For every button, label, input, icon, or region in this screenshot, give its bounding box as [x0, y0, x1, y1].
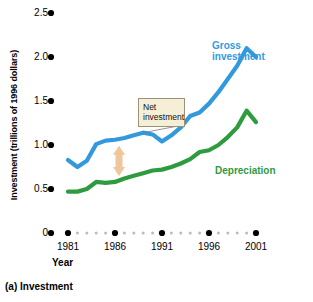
x-axis-minor-dot [132, 232, 135, 235]
y-axis-tick-dots [48, 10, 54, 236]
y-axis-tick-dot [48, 186, 54, 192]
x-axis-minor-dot [104, 232, 107, 235]
x-axis-major-dot [206, 230, 212, 236]
investment-chart-figure: Investment (trillions of 1996 dollars) 2… [0, 0, 313, 302]
callout-line-1: Net [143, 102, 180, 112]
x-tick-label: 2001 [236, 241, 276, 252]
y-axis-title: Investment (trillions of 1996 dollars) [9, 25, 19, 225]
x-axis-minor-dot [142, 232, 145, 235]
y-axis-tick-dot [48, 54, 54, 60]
x-axis-minor-dot [123, 232, 126, 235]
x-axis-major-dots [65, 230, 259, 236]
x-axis-minor-dot [245, 232, 248, 235]
x-axis-major-dot [112, 230, 118, 236]
x-axis-minor-dot [217, 232, 220, 235]
x-axis-minor-dot [170, 232, 173, 235]
x-axis-minor-dot [151, 232, 154, 235]
callout-line-2: investment [143, 112, 180, 122]
net-investment-arrow-icon [113, 146, 125, 176]
y-axis-tick-dot [48, 10, 54, 16]
x-tick-label: 1996 [189, 241, 229, 252]
x-axis-minor-dot [85, 232, 88, 235]
x-axis-minor-dot [236, 232, 239, 235]
y-tick-label: 2.5 [22, 7, 48, 18]
gross-investment-label-line1: Gross [212, 40, 265, 51]
y-axis-tick-dot [48, 98, 54, 104]
chart-plot-area [0, 0, 313, 302]
x-axis-minor-dot [179, 232, 182, 235]
x-axis-major-dot [253, 230, 259, 236]
net-investment-callout: Net investment [138, 98, 185, 127]
y-tick-label: 1.0 [22, 139, 48, 150]
x-axis-minor-dot [198, 232, 201, 235]
x-tick-label: 1986 [95, 241, 135, 252]
y-tick-label: 0.5 [22, 183, 48, 194]
x-axis-major-dot [65, 230, 71, 236]
y-tick-label: 2.0 [22, 51, 48, 62]
x-axis-minor-dot [95, 232, 98, 235]
x-axis-title: Year [52, 257, 73, 268]
gross-investment-label: Grossinvestment [212, 40, 265, 62]
y-tick-label: 0 [22, 227, 48, 238]
x-axis-minor-dot [189, 232, 192, 235]
gross-investment-label-line2: investment [212, 51, 265, 62]
y-tick-label: 1.5 [22, 95, 48, 106]
depreciation-label: Depreciation [215, 165, 276, 176]
figure-caption: (a) Investment [5, 281, 73, 292]
x-axis-major-dot [159, 230, 165, 236]
x-tick-label: 1981 [48, 241, 88, 252]
x-axis-minor-dot [76, 232, 79, 235]
y-axis-tick-dot [48, 230, 54, 236]
y-axis-tick-dot [48, 142, 54, 148]
x-axis-minor-dot [226, 232, 229, 235]
x-tick-label: 1991 [142, 241, 182, 252]
